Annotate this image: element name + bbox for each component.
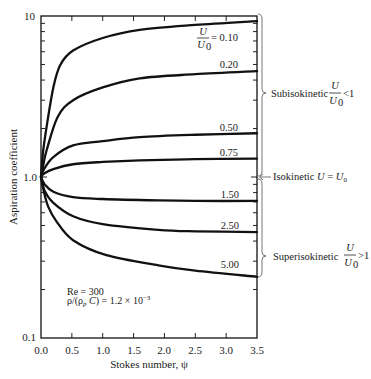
y-tick-label-0-1: 0.1 [22, 331, 36, 343]
density-ratio-value: ) = 1.2 × 10 [96, 295, 143, 307]
y-tick-label-1: 1.0 [23, 171, 37, 183]
brace-subisokinetic [258, 14, 266, 176]
curve-label-0-20: 0.20 [220, 59, 238, 70]
x-tick-label: 0.0 [34, 344, 48, 356]
curve-value: = 0.10 [211, 32, 238, 43]
region-label-subisokinetic: Subisokinetic U U 0 <1 [271, 80, 354, 108]
aspiration-coefficient-chart: 10 1.0 0.1 0.0 0.5 1.0 1.5 2.0 2.5 3.0 3… [0, 0, 371, 379]
fraction-numerator: U [346, 242, 355, 253]
y-tick-label-10: 10 [24, 10, 36, 22]
curve-label-0-50: 0.50 [220, 122, 238, 133]
fraction-denominator: U [344, 257, 353, 268]
density-ratio-note: ρ/(ρp C) = 1.2 × 10−3 [67, 294, 151, 308]
relation: <1 [343, 88, 354, 99]
curve-0-75 [41, 159, 257, 177]
curve-label-0-10: U U 0 = 0.10 [197, 26, 238, 52]
x-axis-title: Stokes number, ψ [110, 358, 188, 370]
fraction-denominator: U [329, 95, 338, 106]
x-tick-label: 1.5 [127, 344, 141, 356]
figure: 10 1.0 0.1 0.0 0.5 1.0 1.5 2.0 2.5 3.0 3… [0, 0, 371, 379]
fraction-numerator: U [199, 26, 208, 37]
curve-label-1-50: 1.50 [221, 189, 239, 200]
superisokinetic-text: Superisokinetic [273, 251, 339, 262]
subscript-zero: 0 [343, 176, 347, 184]
density-ratio-part: ρ/(ρ [67, 295, 83, 307]
isokinetic-word: Isokinetic [273, 171, 317, 182]
equals-sign: = [325, 171, 336, 182]
curve-label-2-50: 2.50 [221, 220, 239, 231]
region-label-isokinetic: Isokinetic U = U0 [273, 171, 347, 184]
x-tick-label: 1.0 [96, 344, 110, 356]
subisokinetic-text: Subisokinetic [271, 88, 329, 99]
fraction-denominator: U [197, 39, 206, 50]
x-tick-label: 0.5 [65, 344, 79, 356]
y-axis-title: Aspiration coefficient [7, 129, 19, 225]
curve-label-5-00: 5.00 [221, 259, 239, 270]
x-tick-label: 3.5 [250, 344, 264, 356]
x-tick-label: 2.5 [188, 344, 202, 356]
isokinetic-text: Isokinetic U = U0 [273, 171, 347, 184]
fraction-numerator: U [331, 80, 340, 91]
brace-superisokinetic [258, 179, 266, 277]
curve-label-0-75: 0.75 [220, 147, 238, 158]
x-tick-label: 3.0 [219, 344, 233, 356]
density-ratio-exponent: −3 [143, 294, 151, 302]
relation: >1 [358, 250, 369, 261]
x-tick-label: 2.0 [157, 344, 171, 356]
region-label-superisokinetic: Superisokinetic U U 0 >1 [273, 242, 369, 270]
